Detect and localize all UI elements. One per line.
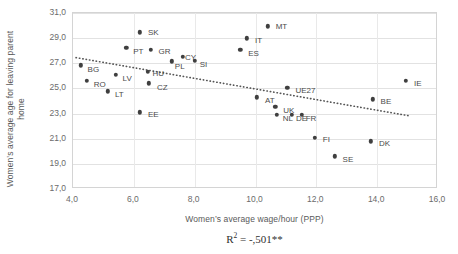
data-point-label: EE	[148, 110, 159, 119]
data-point-label: BE	[381, 97, 392, 106]
data-point	[245, 36, 249, 40]
x-axis-title: Women’s average wage/hour (PPP)	[72, 214, 437, 224]
data-point	[265, 24, 269, 28]
y-axis-tick-label: 29,0	[32, 32, 66, 42]
data-point-label: AT	[265, 96, 275, 105]
data-point	[145, 70, 149, 74]
data-point	[147, 81, 151, 85]
data-point	[290, 113, 294, 117]
data-point	[275, 113, 279, 117]
data-point-label: PL	[175, 62, 185, 71]
data-point-label: HU	[153, 69, 165, 78]
data-point-label: IT	[255, 36, 262, 45]
x-axis-tick-label: 8,0	[177, 194, 211, 204]
y-axis-tick-label: 25,0	[32, 82, 66, 92]
data-point	[369, 139, 373, 143]
data-point-label: LT	[115, 90, 124, 99]
data-point-label: IE	[414, 78, 422, 87]
data-point-label: LV	[123, 73, 132, 82]
data-point-label: FI	[323, 135, 330, 144]
gridline-vertical	[377, 13, 378, 187]
data-point-label: UE27	[295, 85, 315, 94]
data-point-label: SE	[343, 155, 354, 164]
data-point-label: FR	[306, 113, 317, 122]
scatter-chart: Women’s average age for leaving parent h…	[0, 0, 458, 254]
data-point	[124, 45, 128, 49]
data-point	[113, 72, 117, 76]
data-point	[332, 154, 336, 158]
x-axis-tick-label: 10,0	[238, 194, 272, 204]
r-squared-annotation: R2 = -,501**	[72, 231, 437, 245]
gridline-horizontal	[73, 164, 436, 165]
gridline-horizontal	[73, 88, 436, 89]
data-point-label: BG	[88, 65, 100, 74]
data-point	[255, 95, 259, 99]
data-point	[404, 79, 408, 83]
gridline-horizontal	[73, 13, 436, 14]
data-point-label: CZ	[157, 83, 168, 92]
data-point	[238, 48, 242, 52]
data-point	[138, 30, 142, 34]
plot-area: BGROLTLVPTSKEEHUCZGRPLCYSIESITATMTUKNLUE…	[72, 12, 437, 188]
data-point-label: SI	[200, 59, 208, 68]
x-axis-tick-label: 12,0	[298, 194, 332, 204]
data-point-label: SK	[148, 28, 159, 37]
data-point-label: PT	[133, 46, 143, 55]
data-point-label: RO	[94, 79, 106, 88]
y-axis-tick-label: 21,0	[32, 133, 66, 143]
gridline-vertical	[134, 13, 135, 187]
r-squared-value: = -,501**	[237, 233, 283, 245]
y-axis-tick-label: 27,0	[32, 57, 66, 67]
y-axis-tick-label: 31,0	[32, 7, 66, 17]
x-axis-tick-label: 6,0	[116, 194, 150, 204]
data-point	[148, 48, 152, 52]
gridline-vertical	[195, 13, 196, 187]
y-axis-tick-label: 23,0	[32, 108, 66, 118]
y-axis-tick-label: 19,0	[32, 158, 66, 168]
x-axis-tick-label: 14,0	[359, 194, 393, 204]
x-axis-tick-label: 16,0	[420, 194, 454, 204]
x-axis-tick-label: 4,0	[55, 194, 89, 204]
data-point-label: GR	[159, 47, 171, 56]
data-point	[106, 89, 110, 93]
data-point	[370, 97, 374, 101]
y-axis-tick-label: 17,0	[32, 183, 66, 193]
data-point	[78, 63, 82, 67]
gridline-horizontal	[73, 114, 436, 115]
gridline-horizontal	[73, 63, 436, 64]
data-point	[84, 79, 88, 83]
gridline-vertical	[316, 13, 317, 187]
data-point	[273, 104, 277, 108]
data-point-label: ES	[248, 49, 259, 58]
data-point-label: MT	[276, 22, 288, 31]
data-point-label: DK	[379, 139, 390, 148]
